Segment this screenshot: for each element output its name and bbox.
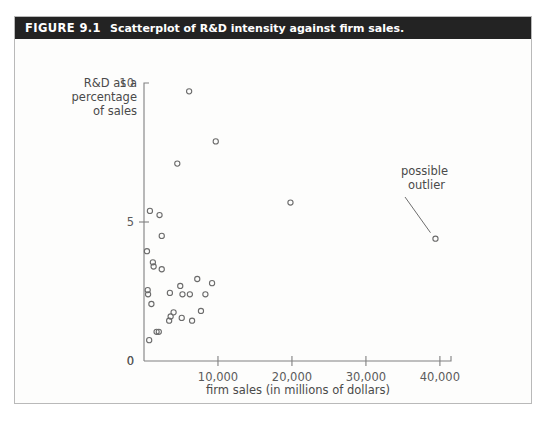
outlier-annotation-line-2: outlier — [408, 178, 445, 192]
data-point-12 — [209, 281, 214, 286]
data-point-0 — [187, 89, 192, 94]
data-point-7 — [144, 249, 149, 254]
data-point-1 — [213, 139, 218, 144]
figure-container: FIGURE 9.1 Scatterplot of R&D intensity … — [14, 16, 532, 404]
data-point-10 — [159, 267, 164, 272]
data-point-30 — [433, 236, 438, 241]
data-point-25 — [189, 318, 194, 323]
data-point-26 — [198, 308, 203, 313]
data-point-11 — [195, 276, 200, 281]
data-point-3 — [288, 200, 293, 205]
outlier-annotation-line-1: possible — [401, 164, 448, 178]
y-axis-title: R&D as a percentage of sales — [72, 76, 137, 118]
y-axis-title-line-1: R&D as a — [84, 76, 137, 90]
scatterplot-svg: 0510 010,00020,00030,00040,000 R&D as a … — [15, 39, 531, 404]
x-axis-ticks: 010,00020,00030,00040,000 — [127, 354, 460, 384]
data-point-13 — [178, 283, 183, 288]
data-point-29 — [147, 338, 152, 343]
figure-number: FIGURE 9.1 — [25, 21, 101, 35]
data-point-4 — [147, 208, 152, 213]
data-point-18 — [203, 292, 208, 297]
outlier-annotation: possible outlier — [401, 164, 448, 233]
data-point-24 — [179, 315, 184, 320]
scatterplot: 0510 010,00020,00030,00040,000 R&D as a … — [15, 39, 531, 404]
x-axis-title: firm sales (in millions of dollars) — [206, 383, 390, 397]
data-point-5 — [157, 212, 162, 217]
y-axis-ticks: 0510 — [119, 76, 149, 368]
y-axis-title-line-2: percentage — [72, 90, 137, 104]
figure-caption: Scatterplot of R&D intensity against fir… — [110, 22, 404, 35]
outlier-leader-line — [405, 197, 430, 233]
y-axis-title-line-3: of sales — [93, 104, 137, 118]
x-axis-line — [144, 356, 451, 361]
x-tick-label-1: 10,000 — [198, 370, 238, 384]
figure-title-bar: FIGURE 9.1 Scatterplot of R&D intensity … — [15, 17, 531, 39]
x-tick-label-2: 20,000 — [272, 370, 312, 384]
data-point-2 — [175, 161, 180, 166]
data-point-19 — [149, 301, 154, 306]
x-tick-label-4: 40,000 — [420, 370, 460, 384]
y-tick-label-1: 5 — [127, 215, 134, 229]
data-point-6 — [159, 233, 164, 238]
data-points — [144, 89, 438, 343]
x-tick-label-0: 0 — [127, 354, 134, 368]
data-point-20 — [180, 292, 185, 297]
data-point-16 — [167, 290, 172, 295]
data-point-17 — [187, 292, 192, 297]
x-tick-label-3: 30,000 — [346, 370, 386, 384]
